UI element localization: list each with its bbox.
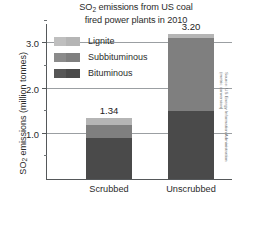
bar-segment-bituminous xyxy=(86,138,132,179)
source-note: Source: US Energy Information Administra… xyxy=(218,72,229,184)
legend-swatch-lignite xyxy=(54,37,80,46)
chart-legend: LigniteSubbituminousBituminous xyxy=(54,33,148,81)
chart-title-so-text: SO xyxy=(79,2,92,12)
chart-title-line-1-rest: emissions from US coal xyxy=(96,2,193,12)
bar-scrubbed[interactable] xyxy=(86,118,132,179)
bar-unscrubbed[interactable] xyxy=(168,34,214,179)
legend-swatch-half-left xyxy=(54,37,66,46)
source-note-line-2: (metric conversion) xyxy=(218,72,223,184)
y-axis-minor-tick xyxy=(44,20,48,21)
bar-segment-bituminous xyxy=(168,111,214,179)
y-axis-major-tick xyxy=(42,88,47,89)
legend-swatch-half-right xyxy=(66,37,80,46)
chart-title-line-1: SO2 emissions from US coal xyxy=(38,2,234,15)
y-axis-major-tick xyxy=(42,42,47,43)
legend-item-bituminous[interactable]: Bituminous xyxy=(54,65,148,81)
source-note-line-1: Source: US Energy Information Administra… xyxy=(224,72,229,184)
legend-swatch-half-right xyxy=(66,69,80,78)
y-axis-title-rest: emissions (million tonnes) xyxy=(18,52,28,158)
legend-swatch-half-right xyxy=(66,53,80,62)
y-axis-major-tick xyxy=(42,133,47,134)
so2-emissions-stacked-bar-chart: SO2 emissions from US coal fired power p… xyxy=(0,0,253,228)
chart-title: SO2 emissions from US coal fired power p… xyxy=(38,2,234,27)
y-axis-minor-tick xyxy=(44,155,48,156)
legend-swatch-half-left xyxy=(54,53,66,62)
y-axis-tick-label: 3.0 xyxy=(26,38,39,49)
y-axis-minor-tick xyxy=(44,65,48,66)
x-axis-category-label: Scrubbed xyxy=(89,184,128,194)
legend-item-lignite[interactable]: Lignite xyxy=(54,33,148,49)
legend-swatch-bituminous xyxy=(54,69,80,78)
y-axis-tick-label: 1.0 xyxy=(26,128,39,139)
legend-label: Bituminous xyxy=(88,68,133,78)
y-axis-title: SO2 emissions (million tonnes) xyxy=(18,28,29,198)
bar-segment-subbituminous xyxy=(86,125,132,139)
legend-swatch-half-left xyxy=(54,69,66,78)
legend-label: Subbituminous xyxy=(88,52,148,62)
x-axis-category-label: Unscrubbed xyxy=(166,184,216,194)
y-axis-minor-tick xyxy=(44,110,48,111)
bar-value-label: 3.20 xyxy=(182,21,201,32)
legend-item-subbituminous[interactable]: Subbituminous xyxy=(54,49,148,65)
bar-segment-subbituminous xyxy=(168,38,214,111)
legend-label: Lignite xyxy=(88,36,115,46)
legend-swatch-subbituminous xyxy=(54,53,80,62)
y-axis-tick-label: 2.0 xyxy=(26,83,39,94)
y-axis-title-subscript: 2 xyxy=(21,158,28,162)
y-axis-title-so-text: SO xyxy=(18,162,28,175)
bar-value-label: 1.34 xyxy=(100,105,119,116)
